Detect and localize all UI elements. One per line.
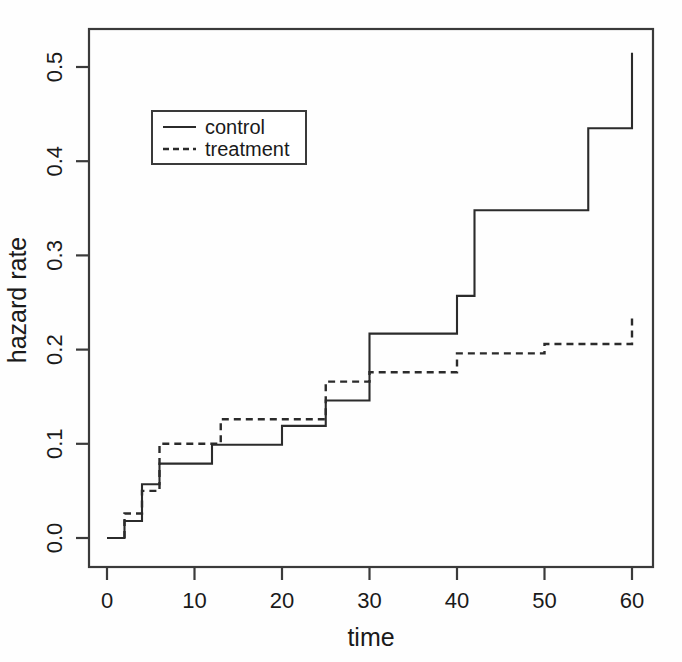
y-tick-label-0.1: 0.1 <box>42 429 67 460</box>
legend: control treatment <box>152 111 306 164</box>
y-tick-label-0.2: 0.2 <box>42 334 67 365</box>
x-axis-title: time <box>347 623 394 651</box>
x-tick-label-40: 40 <box>445 588 469 613</box>
y-axis-tick-labels: 0.0 0.1 0.2 0.3 0.4 0.5 <box>42 52 67 554</box>
legend-label-treatment: treatment <box>205 138 290 160</box>
x-tick-label-30: 30 <box>357 588 381 613</box>
x-axis-tick-labels: 0 10 20 30 40 50 60 <box>101 588 644 613</box>
x-tick-label-60: 60 <box>620 588 644 613</box>
plot-frame <box>89 29 653 567</box>
legend-label-control: control <box>205 116 265 138</box>
series-line-treatment <box>125 317 633 538</box>
x-tick-label-20: 20 <box>270 588 294 613</box>
x-tick-label-10: 10 <box>182 588 206 613</box>
y-axis-title: hazard rate <box>3 237 31 363</box>
y-tick-label-0.0: 0.0 <box>42 523 67 554</box>
y-tick-label-0.3: 0.3 <box>42 240 67 271</box>
y-tick-label-0.5: 0.5 <box>42 52 67 83</box>
x-tick-label-0: 0 <box>101 588 113 613</box>
y-tick-label-0.4: 0.4 <box>42 146 67 177</box>
y-axis-ticks <box>76 67 89 538</box>
x-axis-ticks <box>107 567 632 580</box>
chart-page: 0 10 20 30 40 50 60 time 0.0 0.1 0.2 0.3… <box>0 0 682 662</box>
hazard-rate-step-chart: 0 10 20 30 40 50 60 time 0.0 0.1 0.2 0.3… <box>0 0 682 662</box>
x-tick-label-50: 50 <box>532 588 556 613</box>
